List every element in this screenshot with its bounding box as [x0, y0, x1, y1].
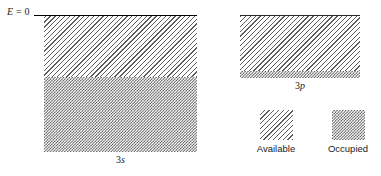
legend: Available Occupied [240, 110, 381, 166]
zero-energy-label: E = 0 [7, 6, 30, 17]
energy-band-diagram: E = 0 3s 3p Available Occupied [0, 0, 381, 176]
band-3p-available-region [240, 16, 360, 71]
band-3p [240, 16, 360, 78]
band-3p-occupied-region [240, 71, 360, 78]
legend-label-occupied: Occupied [317, 143, 379, 154]
legend-swatch-occupied [332, 110, 365, 140]
band-3s-label: 3s [44, 154, 197, 165]
band-3p-label: 3p [240, 80, 360, 91]
legend-swatch-available [260, 110, 293, 140]
band-3s-label-orbital: s [121, 154, 125, 165]
band-3s [44, 16, 197, 152]
energy-value: = 0 [13, 6, 29, 17]
checker-pattern [240, 71, 360, 78]
band-3s-occupied-region [44, 77, 197, 152]
band-3p-label-orbital: p [300, 80, 305, 91]
band-3s-available-region [44, 16, 197, 77]
legend-label-available: Available [245, 143, 307, 154]
legend-item-available: Available [245, 110, 307, 154]
checker-pattern [332, 110, 365, 140]
legend-item-occupied: Occupied [317, 110, 379, 154]
checker-pattern [44, 77, 197, 152]
